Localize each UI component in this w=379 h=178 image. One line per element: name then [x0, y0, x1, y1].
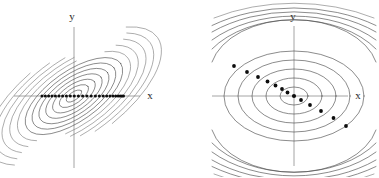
left-contour-panel: y x [0, 0, 190, 177]
left-y-axis-label: y [69, 10, 75, 22]
left-iterate-point [90, 95, 93, 98]
left-iterate-point [94, 95, 97, 98]
right-iterate-point [274, 84, 278, 88]
right-iterate-point [280, 87, 284, 91]
right-iterate-point [344, 124, 348, 128]
right-iterate-point [308, 103, 312, 107]
left-axes [14, 27, 140, 168]
left-iterate-point [41, 95, 44, 98]
left-iterate-point [112, 95, 115, 98]
left-iterate-point [109, 95, 112, 98]
left-iterate-point [51, 95, 54, 98]
right-iterate-point [286, 91, 290, 95]
right-iterate-point [245, 70, 249, 74]
left-iterate-point [61, 95, 64, 98]
left-iterate-point [69, 95, 72, 98]
right-iterate-point-minimum [292, 94, 296, 98]
left-panel-canvas: y x [0, 0, 190, 177]
contour-plot-figure: y x [0, 0, 379, 177]
left-contour-level-12 [0, 1, 183, 177]
left-iterate-point [122, 95, 125, 98]
right-iterate-point [299, 98, 303, 102]
right-iterate-point [319, 109, 323, 113]
left-contour-set [0, 1, 183, 177]
left-iterate-point [105, 95, 108, 98]
right-iterate-point [266, 80, 270, 84]
right-contour-level-10-bottom [212, 167, 376, 178]
left-iterate-point [73, 95, 76, 98]
right-iterate-point [332, 116, 336, 120]
left-iterate-point [98, 95, 101, 98]
right-iterate-point [232, 64, 236, 68]
left-iterate-point [77, 95, 80, 98]
left-iterate-point [65, 95, 68, 98]
right-contour-panel: y x [190, 0, 379, 177]
right-panel-canvas: y x [190, 0, 379, 177]
right-x-axis-label: x [355, 89, 361, 101]
left-iterate-point [58, 95, 61, 98]
left-iterate-point [81, 95, 84, 98]
right-iterate-point [256, 75, 260, 79]
left-iterate-point [54, 95, 57, 98]
left-iterate-point [85, 95, 88, 98]
left-iterate-point [102, 95, 105, 98]
left-x-axis-label: x [147, 89, 153, 101]
left-iterate-point [44, 95, 47, 98]
left-iterate-point [47, 95, 50, 98]
